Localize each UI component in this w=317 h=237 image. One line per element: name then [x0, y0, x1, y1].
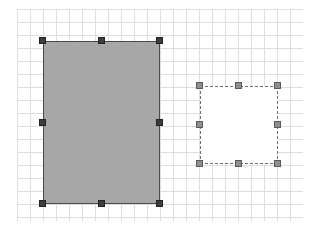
resize-handle-top-right[interactable]: [156, 37, 163, 44]
resize-handle-middle-left[interactable]: [39, 119, 46, 126]
resize-handle-middle-left[interactable]: [196, 121, 203, 128]
resize-handle-middle-right[interactable]: [274, 121, 281, 128]
dashed-rectangle-shape[interactable]: [200, 86, 278, 164]
filled-rectangle-shape[interactable]: [43, 41, 160, 204]
resize-handle-top-center[interactable]: [235, 82, 242, 89]
resize-handle-top-right[interactable]: [274, 82, 281, 89]
drawing-canvas[interactable]: [0, 0, 317, 237]
resize-handle-top-left[interactable]: [39, 37, 46, 44]
resize-handle-bottom-right[interactable]: [156, 200, 163, 207]
resize-handle-bottom-center[interactable]: [235, 160, 242, 167]
resize-handle-bottom-left[interactable]: [196, 160, 203, 167]
resize-handle-bottom-left[interactable]: [39, 200, 46, 207]
resize-handle-top-center[interactable]: [98, 37, 105, 44]
resize-handle-top-left[interactable]: [196, 82, 203, 89]
resize-handle-middle-right[interactable]: [156, 119, 163, 126]
resize-handle-bottom-right[interactable]: [274, 160, 281, 167]
resize-handle-bottom-center[interactable]: [98, 200, 105, 207]
